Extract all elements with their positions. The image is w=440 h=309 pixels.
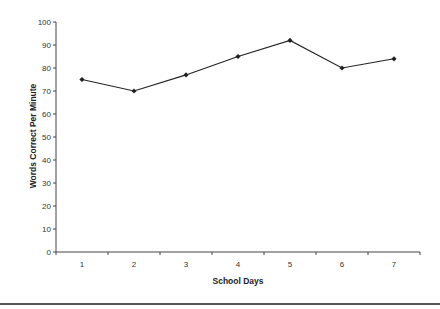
y-tick-label: 100 bbox=[38, 18, 52, 27]
y-tick-label: 70 bbox=[42, 87, 51, 96]
x-tick-label: 2 bbox=[132, 260, 137, 269]
x-tick-label: 3 bbox=[184, 260, 189, 269]
y-tick-label: 60 bbox=[42, 110, 51, 119]
diamond-marker-icon bbox=[183, 72, 188, 77]
bottom-divider bbox=[0, 303, 440, 305]
y-axis: 0102030405060708090100 bbox=[38, 18, 56, 257]
y-axis-title: Words Correct Per Minute bbox=[28, 83, 38, 188]
y-tick-label: 0 bbox=[47, 248, 52, 257]
diamond-marker-icon bbox=[287, 38, 292, 43]
x-tick-label: 1 bbox=[80, 260, 85, 269]
diamond-marker-icon bbox=[131, 88, 136, 93]
diamond-marker-icon bbox=[391, 56, 396, 61]
diamond-marker-icon bbox=[79, 77, 84, 82]
y-tick-label: 20 bbox=[42, 202, 51, 211]
y-tick-label: 80 bbox=[42, 64, 51, 73]
data-series bbox=[79, 38, 396, 94]
x-axis-title: School Days bbox=[212, 276, 263, 286]
y-tick-label: 50 bbox=[42, 133, 51, 142]
x-tick-label: 4 bbox=[236, 260, 241, 269]
diamond-marker-icon bbox=[339, 65, 344, 70]
y-tick-label: 40 bbox=[42, 156, 51, 165]
y-tick-label: 30 bbox=[42, 179, 51, 188]
x-tick-label: 6 bbox=[340, 260, 345, 269]
diamond-marker-icon bbox=[235, 54, 240, 59]
x-tick-label: 7 bbox=[392, 260, 397, 269]
series-line bbox=[82, 40, 394, 91]
y-tick-label: 90 bbox=[42, 41, 51, 50]
x-tick-label: 5 bbox=[288, 260, 293, 269]
y-tick-label: 10 bbox=[42, 225, 51, 234]
line-chart: 0102030405060708090100 1234567 Words Cor… bbox=[0, 0, 440, 309]
x-axis: 1234567 bbox=[56, 252, 420, 269]
